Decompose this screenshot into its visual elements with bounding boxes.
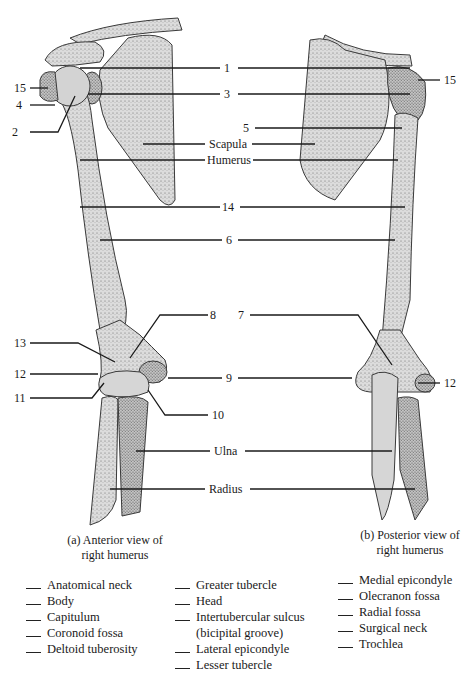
label-5: 5 [241,121,251,135]
bone-illustration [0,0,471,560]
label-1: 1 [222,61,232,75]
caption-posterior: (b) Posterior view of right humerus [350,528,470,558]
answer-blank[interactable] [175,610,190,621]
label-10: 10 [210,408,226,422]
word-bank-column-2: Greater tubercle Head Intertubercular su… [175,577,305,673]
word-bank-item[interactable]: Intertubercular sulcus [175,609,305,625]
label-12-anterior: 12 [12,367,28,381]
word-bank-item[interactable]: Deltoid tuberosity [26,641,138,657]
label-13: 13 [12,336,28,350]
word-bank-item[interactable]: Medial epicondyle [338,572,452,588]
answer-blank[interactable] [175,658,190,669]
answer-blank[interactable] [26,626,41,637]
answer-blank[interactable] [338,621,353,632]
label-ulna: Ulna [212,444,239,458]
word-bank-item[interactable]: Radial fossa [338,604,452,620]
label-3: 3 [222,87,232,101]
word-bank-column-3: Medial epicondyle Olecranon fossa Radial… [338,572,452,652]
answer-blank[interactable] [26,594,41,605]
word-bank-item[interactable]: Anatomical neck [26,577,138,593]
label-14: 14 [220,200,236,214]
word-bank-item[interactable]: Greater tubercle [175,577,305,593]
posterior-view [300,35,435,520]
answer-blank[interactable] [26,642,41,653]
humerus-diagram: 1 2 3 4 5 6 7 8 9 10 11 12 12 13 14 15 1… [0,0,471,560]
answer-blank[interactable] [26,610,41,621]
caption-anterior: (a) Anterior view of right humerus [40,533,190,563]
label-scapula: Scapula [207,137,249,151]
answer-blank[interactable] [175,594,190,605]
label-15-anterior: 15 [12,81,28,95]
word-bank-item[interactable]: Surgical neck [338,620,452,636]
word-bank-item[interactable]: Head [175,593,305,609]
answer-blank[interactable] [338,605,353,616]
answer-blank[interactable] [338,573,353,584]
word-bank-item[interactable]: Olecranon fossa [338,588,452,604]
label-radius: Radius [207,482,244,496]
answer-blank[interactable] [338,637,353,648]
answer-blank[interactable] [26,578,41,589]
label-15-posterior: 15 [442,73,458,87]
label-humerus: Humerus [205,153,253,167]
label-8: 8 [208,308,218,322]
label-4: 4 [14,98,24,112]
label-7: 7 [236,308,246,322]
label-2: 2 [10,125,20,139]
word-bank-item[interactable]: Coronoid fossa [26,625,138,641]
label-6: 6 [224,233,234,247]
label-9: 9 [224,371,234,385]
word-bank-item-continuation: (bicipital groove) [175,625,305,641]
label-12-posterior: 12 [442,376,458,390]
word-bank-item[interactable]: Trochlea [338,636,452,652]
word-bank-item[interactable]: Lesser tubercle [175,657,305,673]
answer-blank[interactable] [175,578,190,589]
word-bank-item[interactable]: Lateral epicondyle [175,641,305,657]
label-11: 11 [12,391,28,405]
answer-blank[interactable] [175,642,190,653]
word-bank-item[interactable]: Capitulum [26,609,138,625]
word-bank-column-1: Anatomical neck Body Capitulum Coronoid … [26,577,138,657]
answer-blank[interactable] [338,589,353,600]
word-bank-item[interactable]: Body [26,593,138,609]
